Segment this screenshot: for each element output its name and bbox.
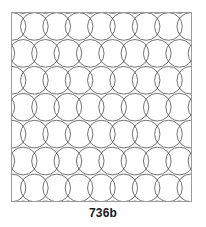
pattern-circle — [121, 147, 149, 175]
pattern-circle — [132, 66, 160, 94]
pattern-circle — [143, 93, 171, 121]
pattern-circle — [76, 147, 104, 175]
pattern-circle — [32, 147, 60, 175]
pattern-circle — [12, 93, 37, 121]
pattern-circle — [132, 174, 160, 201]
circle-group — [12, 13, 191, 201]
pattern-circle — [99, 147, 127, 175]
pattern-circle — [99, 93, 127, 121]
pattern-circle — [166, 40, 191, 68]
pattern-circle — [155, 120, 183, 148]
pattern-circle — [54, 40, 82, 68]
pattern-circle — [110, 120, 138, 148]
pattern-circle — [12, 147, 37, 175]
pattern-circle — [177, 66, 191, 94]
pattern-circle — [88, 174, 116, 201]
pattern-circle — [54, 147, 82, 175]
pattern-circle — [121, 93, 149, 121]
pattern-circle — [143, 40, 171, 68]
pattern-circle — [65, 174, 93, 201]
pattern-circle — [65, 66, 93, 94]
pattern-circle — [166, 147, 191, 175]
pattern-circle — [32, 40, 60, 68]
pattern-circle — [155, 66, 183, 94]
pattern-circle — [43, 174, 71, 201]
pattern-circle — [76, 93, 104, 121]
pattern-circle — [121, 40, 149, 68]
pattern-circle — [21, 13, 49, 40]
pattern-circle — [88, 120, 116, 148]
pattern-circle — [88, 66, 116, 94]
pattern-circle — [32, 93, 60, 121]
pattern-circle — [21, 120, 49, 148]
pattern-circle — [143, 147, 171, 175]
pattern-circle — [43, 13, 71, 40]
pattern-circle — [110, 174, 138, 201]
pattern-circle — [132, 13, 160, 40]
pattern-circle — [12, 120, 26, 148]
pattern-circle — [12, 40, 37, 68]
pattern-circle — [43, 66, 71, 94]
pattern-circle — [12, 66, 26, 94]
pattern-circle — [155, 13, 183, 40]
figure-caption: 736b — [0, 206, 206, 221]
pattern-circle — [43, 120, 71, 148]
pattern-circle — [21, 66, 49, 94]
pattern-circle — [110, 13, 138, 40]
pattern-circle — [177, 120, 191, 148]
pattern-circle — [54, 93, 82, 121]
pattern-circle — [99, 40, 127, 68]
pattern-circle — [88, 13, 116, 40]
pattern-circle — [166, 93, 191, 121]
pattern-circle — [21, 174, 49, 201]
pattern-frame — [11, 12, 192, 202]
pattern-circle — [132, 120, 160, 148]
pattern-circle — [65, 13, 93, 40]
figure-container: 736b — [0, 0, 206, 227]
pattern-circle — [76, 40, 104, 68]
pattern-circle — [155, 174, 183, 201]
overlapping-circles-pattern — [12, 13, 191, 201]
pattern-circle — [65, 120, 93, 148]
pattern-circle — [110, 66, 138, 94]
